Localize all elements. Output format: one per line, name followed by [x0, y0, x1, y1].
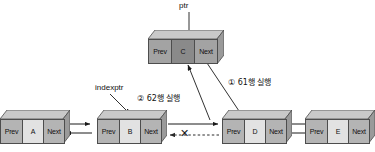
- node-B-prev-label: Prev: [102, 128, 116, 135]
- node-C-prev-label: Prev: [153, 48, 167, 55]
- indexptr-label: indexptr: [95, 84, 123, 92]
- node-D-data-cell[interactable]: D: [244, 119, 266, 144]
- node-B-next-label: Next: [144, 128, 158, 135]
- node-A[interactable]: Prev A Next: [0, 110, 70, 144]
- node-E[interactable]: Prev E Next: [305, 110, 375, 144]
- step2-arrow: [188, 65, 210, 120]
- node-E-next-label: Next: [352, 128, 366, 135]
- ptr-label: ptr: [179, 2, 188, 10]
- step1-label: ① 61행 실행: [228, 79, 271, 87]
- node-D-next-cell[interactable]: Next: [265, 119, 287, 144]
- node-D-prev-cell[interactable]: Prev: [222, 119, 245, 144]
- step2-label: ② 62행 실행: [137, 95, 180, 103]
- node-E-next-cell[interactable]: Next: [348, 119, 370, 144]
- node-C[interactable]: Prev C Next: [148, 30, 224, 64]
- node-C-data-cell[interactable]: C: [171, 39, 195, 64]
- node-D-prev-label: Prev: [227, 128, 241, 135]
- node-B-data-cell[interactable]: B: [119, 119, 141, 144]
- node-B-data-label: B: [128, 128, 132, 135]
- node-A-prev-label: Prev: [5, 128, 19, 135]
- node-C-data-label: C: [181, 48, 186, 55]
- node-E-prev-label: Prev: [310, 128, 324, 135]
- node-D-data-label: D: [253, 128, 258, 135]
- node-A-next-label: Next: [47, 128, 61, 135]
- node-B-next-cell[interactable]: Next: [140, 119, 162, 144]
- node-A-data-cell[interactable]: A: [22, 119, 44, 144]
- node-A-next-cell[interactable]: Next: [43, 119, 65, 144]
- node-B-prev-cell[interactable]: Prev: [97, 119, 120, 144]
- node-C-next-cell[interactable]: Next: [194, 39, 218, 64]
- node-E-data-label: E: [336, 128, 340, 135]
- node-D-next-label: Next: [269, 128, 283, 135]
- node-A-data-label: A: [31, 128, 35, 135]
- node-C-next-label: Next: [199, 48, 213, 55]
- node-E-data-cell[interactable]: E: [327, 119, 349, 144]
- node-A-prev-cell[interactable]: Prev: [0, 119, 23, 144]
- diagram-canvas: Prev C Next Prev A Next: [0, 0, 375, 152]
- node-E-prev-cell[interactable]: Prev: [305, 119, 328, 144]
- node-C-prev-cell[interactable]: Prev: [148, 39, 172, 64]
- node-D[interactable]: Prev D Next: [222, 110, 292, 144]
- node-B[interactable]: Prev B Next: [97, 110, 167, 144]
- step1-arrow: [207, 63, 243, 117]
- broken-link-x-icon: ✕: [180, 128, 189, 139]
